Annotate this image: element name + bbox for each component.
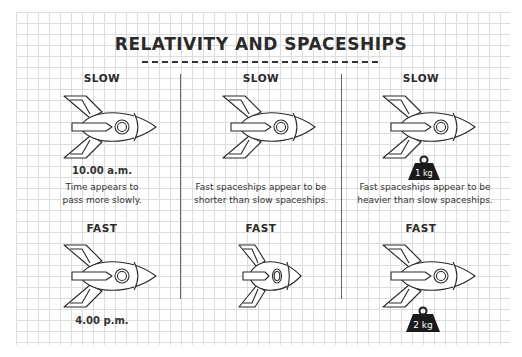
- title-underline: [142, 61, 378, 63]
- weight-label: 1 kg: [415, 169, 432, 178]
- column-1-time-slow: 10.00 a.m.: [42, 164, 162, 177]
- caption-line: Fast spaceships appear to be: [345, 181, 505, 194]
- caption-line: Fast spaceships appear to be: [185, 181, 337, 194]
- column-1-time-fast: 4.00 p.m.: [42, 314, 162, 327]
- caption-line: pass more slowly.: [30, 194, 174, 207]
- column-2-fast-label: FAST: [201, 222, 321, 234]
- column-2-slow-label: SLOW: [201, 72, 321, 84]
- rocket-icon: [379, 243, 479, 309]
- weight-label: 2 kg: [413, 320, 433, 330]
- column-divider-1: [180, 74, 181, 299]
- weight-1kg-icon: 1 kg: [407, 155, 441, 181]
- caption-line: heavier than slow spaceships.: [345, 194, 505, 207]
- rocket-icon: [219, 94, 319, 160]
- column-3-slow-label: SLOW: [361, 72, 481, 84]
- weight-2kg-icon: 2 kg: [405, 306, 441, 333]
- column-1-caption: Time appears to pass more slowly.: [30, 181, 174, 207]
- caption-line: shorter than slow spaceships.: [185, 194, 337, 207]
- diagram-title: RELATIVITY AND SPACESHIPS: [0, 34, 522, 54]
- rocket-icon: [60, 243, 160, 309]
- column-1-slow-label: SLOW: [42, 72, 162, 84]
- rocket-icon: [379, 94, 479, 160]
- caption-line: Time appears to: [30, 181, 174, 194]
- rocket-short-icon: [235, 243, 303, 309]
- column-1-fast-label: FAST: [42, 222, 162, 234]
- column-divider-2: [341, 74, 342, 299]
- column-3-caption: Fast spaceships appear to be heavier tha…: [345, 181, 505, 207]
- column-2-caption: Fast spaceships appear to be shorter tha…: [185, 181, 337, 207]
- column-3-fast-label: FAST: [361, 222, 481, 234]
- rocket-icon: [60, 94, 160, 160]
